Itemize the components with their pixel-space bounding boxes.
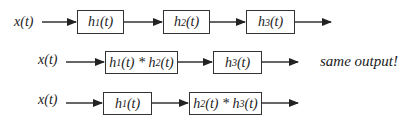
block-h3-row2: h3(t) bbox=[213, 51, 262, 74]
block-h1: h1(t) bbox=[77, 10, 124, 34]
block-h1-conv-h2: h1(t) * h2(t) bbox=[105, 51, 178, 74]
block-h1-row3: h1(t) bbox=[103, 92, 152, 115]
input-label-row1: x(t) bbox=[14, 14, 33, 30]
block-h2: h2(t) bbox=[163, 10, 210, 34]
block-h2-conv-h3: h2(t) * h3(t) bbox=[189, 92, 262, 115]
same-output-note: same output! bbox=[320, 53, 398, 70]
block-h3: h3(t) bbox=[246, 10, 295, 34]
input-label-row3: x(t) bbox=[38, 92, 57, 108]
input-label-row2: x(t) bbox=[38, 52, 57, 68]
